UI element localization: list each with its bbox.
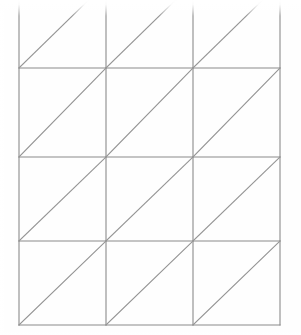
diagonal-lines-group <box>19 0 280 325</box>
vertical-lines-group <box>19 0 280 325</box>
diagonal-r4-c3 <box>193 241 280 325</box>
diagonal-r2-c2 <box>106 68 193 157</box>
diagonal-r1-c3 <box>193 0 280 68</box>
diagonal-r3-c2 <box>106 157 193 241</box>
tessellation-grid-drawing <box>0 0 301 335</box>
diagonal-r2-c3 <box>193 68 280 157</box>
diagonal-r1-c1 <box>19 0 106 68</box>
diagonal-r1-c2 <box>106 0 193 68</box>
diagonal-r4-c2 <box>106 241 193 325</box>
figure-canvas <box>0 0 301 335</box>
diagonal-r3-c3 <box>193 157 280 241</box>
diagonal-r2-c1 <box>19 68 106 157</box>
diagonal-r4-c1 <box>19 241 106 325</box>
diagonal-r3-c1 <box>19 157 106 241</box>
